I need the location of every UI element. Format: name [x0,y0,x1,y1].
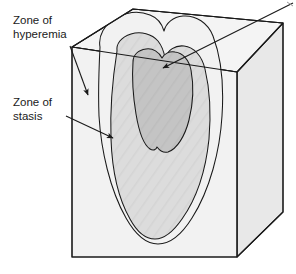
label-zone-of-stasis: Zone of stasis [13,96,53,122]
label-stasis-line2: stasis [13,110,43,122]
label-stasis-line1: Zone of [13,96,53,108]
label-hyperemia-line2: hyperemia [13,28,67,40]
label-zone-of-hyperemia: Zone of hyperemia [13,14,67,40]
figure-canvas: Zone of hyperemia Zone of stasis [0,0,296,274]
label-hyperemia-line1: Zone of [13,14,53,26]
burn-zones-diagram: Zone of hyperemia Zone of stasis [0,0,296,274]
